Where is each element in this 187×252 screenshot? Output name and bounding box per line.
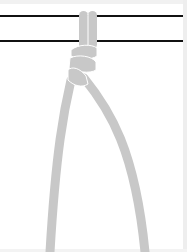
right-rope-strand <box>84 78 145 252</box>
rope <box>50 78 145 252</box>
left-rope-strand <box>50 80 71 252</box>
knot-diagram <box>0 0 187 252</box>
knot-illustration <box>0 0 187 252</box>
knot <box>68 11 97 86</box>
